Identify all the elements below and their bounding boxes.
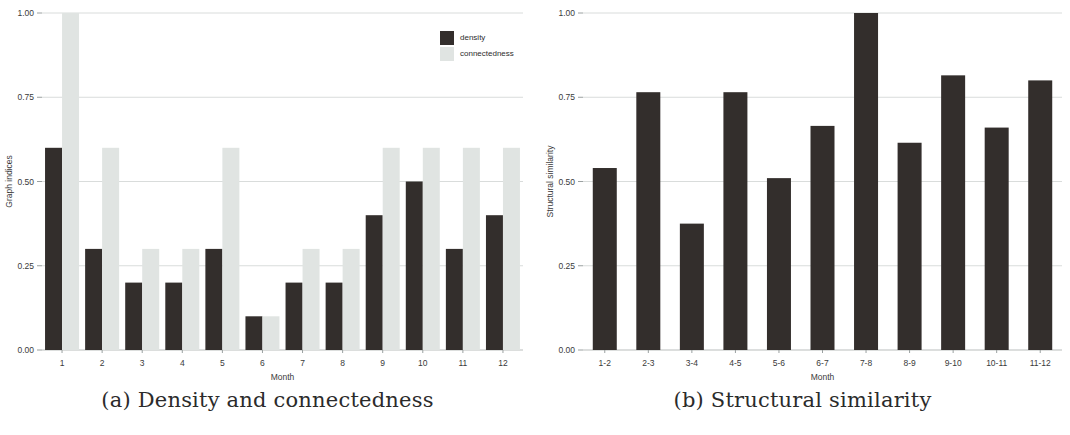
bar-structural-similarity-6-7 [811,126,835,350]
y-tick-label: 0.75 [558,92,575,102]
y-tick-label: 0.25 [17,261,34,271]
x-tick-label: 6 [260,358,265,368]
bar-connectedness-8 [343,249,360,350]
bar-density-8 [326,283,343,350]
x-tick-label: 8-9 [903,358,916,368]
bar-density-4 [165,283,182,350]
bar-structural-similarity-4-5 [723,92,747,350]
bar-connectedness-9 [383,148,400,350]
caption-panel-b: (b) Structural similarity [535,388,1070,412]
x-tick-label: 11-12 [1030,358,1051,368]
legend-swatch-connectedness [440,47,454,61]
bar-connectedness-2 [102,148,119,350]
bar-structural-similarity-10-11 [985,128,1009,350]
bar-connectedness-6 [262,316,279,350]
x-tick-label: 6-7 [816,358,829,368]
bar-density-12 [486,215,503,350]
y-axis-title: Structural similarity [545,145,555,218]
x-axis-title: Month [271,372,295,382]
bar-connectedness-4 [182,249,199,350]
bar-structural-similarity-1-2 [593,168,617,350]
y-tick-label: 0.75 [17,92,34,102]
bar-connectedness-12 [503,148,520,350]
bar-structural-similarity-8-9 [898,143,922,350]
bar-connectedness-3 [142,249,159,350]
bar-density-6 [245,316,262,350]
bar-connectedness-1 [62,13,79,350]
legend-swatch-density [440,31,454,45]
bar-connectedness-5 [222,148,239,350]
x-tick-label: 5 [220,358,225,368]
x-tick-label: 4-5 [729,358,742,368]
x-tick-label: 4 [180,358,185,368]
figure-row: 0.000.250.500.751.00Graph indices1234567… [0,0,1070,435]
bar-structural-similarity-3-4 [680,224,704,350]
x-tick-label: 9 [380,358,385,368]
bar-connectedness-10 [423,148,440,350]
bar-density-7 [286,283,303,350]
y-tick-label: 0.25 [558,261,575,271]
x-tick-label: 7 [300,358,305,368]
bar-connectedness-11 [463,148,480,350]
x-tick-label: 10-11 [986,358,1007,368]
bar-structural-similarity-7-8 [854,13,878,350]
bar-structural-similarity-9-10 [941,75,965,350]
x-tick-label: 11 [458,358,467,368]
x-tick-label: 3-4 [686,358,699,368]
x-tick-label: 3 [140,358,145,368]
y-tick-label: 0.50 [558,177,575,187]
bar-density-1 [45,148,62,350]
y-tick-label: 0.50 [17,177,34,187]
bar-structural-similarity-2-3 [636,92,660,350]
bar-density-5 [205,249,222,350]
x-tick-label: 2-3 [642,358,655,368]
chart-a-svg: 0.000.250.500.751.00Graph indices1234567… [0,0,535,385]
bar-density-2 [85,249,102,350]
x-tick-label: 8 [340,358,345,368]
x-tick-label: 7-8 [860,358,873,368]
x-tick-label: 5-6 [773,358,786,368]
x-tick-label: 2 [100,358,105,368]
x-tick-label: 9-10 [945,358,962,368]
panel-b-structural-similarity: 0.000.250.500.751.00Structural similarit… [535,0,1070,435]
y-tick-label: 1.00 [17,8,34,18]
chart-a-plot-area: 0.000.250.500.751.00Graph indices1234567… [0,0,535,385]
bar-structural-similarity-11-12 [1028,80,1052,350]
bar-structural-similarity-5-6 [767,178,791,350]
bar-density-3 [125,283,142,350]
x-tick-label: 1 [60,358,65,368]
y-tick-label: 1.00 [558,8,575,18]
bar-connectedness-7 [303,249,320,350]
panel-a-density-connectedness: 0.000.250.500.751.00Graph indices1234567… [0,0,535,435]
legend-label-density: density [460,33,485,42]
y-tick-label: 0.00 [17,345,34,355]
chart-b-plot-area: 0.000.250.500.751.00Structural similarit… [535,0,1070,385]
x-tick-label: 10 [418,358,428,368]
chart-b-svg: 0.000.250.500.751.00Structural similarit… [535,0,1070,385]
x-tick-label: 1-2 [599,358,612,368]
caption-panel-a: (a) Density and connectedness [0,388,535,412]
bar-density-11 [446,249,463,350]
x-tick-label: 12 [498,358,508,368]
y-axis-title: Graph indices [4,155,14,207]
bar-density-10 [406,182,423,351]
y-tick-label: 0.00 [558,345,575,355]
bar-density-9 [366,215,383,350]
x-axis-title: Month [811,372,835,382]
legend-label-connectedness: connectedness [460,49,514,58]
